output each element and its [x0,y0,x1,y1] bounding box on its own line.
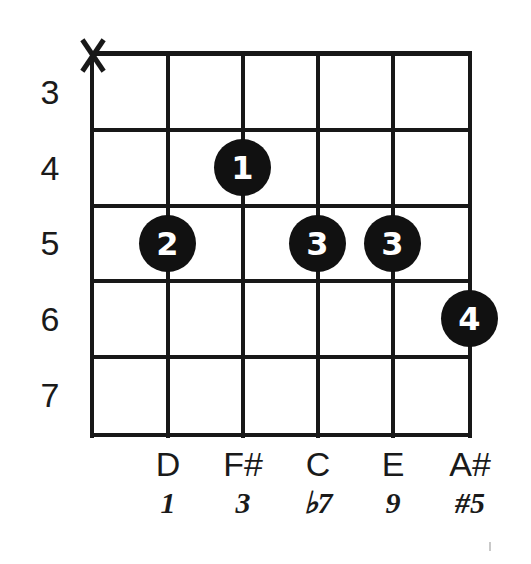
finger-dot-2: 2 [139,215,196,272]
fret-line-bottom [90,433,472,437]
string-line-6 [468,53,472,438]
fret-line-4-5 [90,204,472,208]
fret-number-5: 5 [24,226,76,260]
note-label-string-6: A# [425,447,515,481]
fret-number-6: 6 [24,302,76,336]
fret-number-3: 3 [24,75,76,109]
string-line-3 [241,53,245,438]
scan-artifact [489,542,491,551]
fret-line-5-6 [90,279,472,283]
guitar-chord-diagram: 3 4 5 6 7 1 2 3 3 4 D F# C E A# 1 3 ♭7 9… [0,0,531,564]
fret-line-6-7 [90,355,472,359]
fret-number-7: 7 [24,378,76,412]
finger-dot-4: 4 [441,290,498,347]
string-line-1 [90,53,94,438]
interval-label-string-6: #5 [425,488,515,518]
fret-line-top [90,51,472,56]
muted-string-x-icon [76,38,110,72]
fret-line-3-4 [90,128,472,132]
finger-dot-1: 1 [214,139,271,196]
finger-dot-3a: 3 [289,215,346,272]
finger-dot-3b: 3 [364,215,421,272]
fret-number-4: 4 [24,151,76,185]
